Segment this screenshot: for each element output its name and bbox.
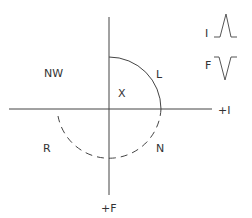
label-n: N [156,142,164,155]
label-r: R [43,142,51,155]
label-nw: NW [44,67,63,80]
label-plus-f: +F [101,202,117,215]
downward-spike-icon [214,57,237,80]
legend-f-label: F [205,59,211,72]
label-l: L [156,68,163,81]
label-plus-i: +I [218,104,230,117]
label-x: X [118,87,126,100]
upward-spike-icon [214,14,237,37]
legend-i-label: I [205,27,208,40]
solid-arc [109,57,161,109]
axis-diagram: NW X L R N +I +F I F [0,0,252,218]
